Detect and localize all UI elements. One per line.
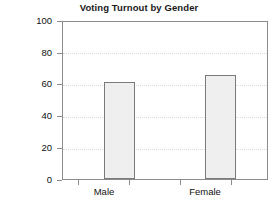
y-axis-label-100: 100 bbox=[0, 16, 52, 26]
bar-chart: Voting Turnout by Gender 100 80 60 40 20… bbox=[0, 0, 278, 203]
bar-male bbox=[104, 82, 135, 179]
x-axis-label-male: Male bbox=[78, 186, 130, 197]
y-axis-label-40: 40 bbox=[0, 111, 52, 121]
gridline-20 bbox=[63, 149, 267, 150]
chart-title: Voting Turnout by Gender bbox=[0, 1, 278, 14]
plot-area bbox=[62, 21, 268, 180]
gridline-40 bbox=[63, 117, 267, 118]
y-axis-label-20: 20 bbox=[0, 143, 52, 153]
y-axis-label-60: 60 bbox=[0, 79, 52, 89]
x-axis-label-female: Female bbox=[179, 186, 231, 197]
bar-female bbox=[205, 75, 236, 179]
gridline-60 bbox=[63, 85, 267, 86]
y-axis-label-0: 0 bbox=[0, 175, 52, 185]
gridline-80 bbox=[63, 53, 267, 54]
x-axis-tick-1 bbox=[129, 180, 130, 185]
y-axis-label-80: 80 bbox=[0, 48, 52, 58]
x-axis-tick-0 bbox=[78, 180, 79, 185]
y-axis-tick-0 bbox=[57, 180, 62, 181]
x-axis-tick-3 bbox=[231, 180, 232, 185]
x-axis-tick-2 bbox=[180, 180, 181, 185]
